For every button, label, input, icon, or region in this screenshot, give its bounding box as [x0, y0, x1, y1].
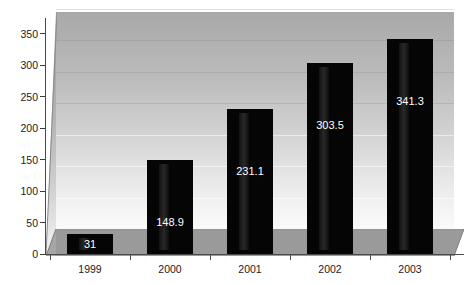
bar: 148.9: [147, 160, 193, 254]
y-axis-tick-label: 200: [20, 122, 38, 134]
x-axis-tick-mark: [50, 255, 51, 260]
bar: 341.3: [387, 39, 433, 254]
bar: 303.5: [307, 63, 353, 254]
x-axis-tick-label: 2001: [220, 263, 280, 275]
y-axis-tick-label: 100: [20, 185, 38, 197]
bar: 31: [67, 234, 113, 254]
x-axis-line: [45, 254, 464, 255]
bar-value-label: 231.1: [227, 165, 273, 177]
x-axis-tick-label: 2003: [380, 263, 440, 275]
y-axis-tick-label: 0: [32, 248, 38, 260]
bar-value-label: 31: [67, 238, 113, 250]
y-axis-tick-label: 150: [20, 154, 38, 166]
bar-highlight: [159, 164, 169, 250]
x-axis-tick-mark: [450, 255, 451, 260]
y-axis-tick-label: 50: [26, 217, 38, 229]
bar-series: 31148.9231.1303.5341.3: [0, 0, 468, 285]
bar-highlight: [239, 113, 249, 250]
x-axis-tick-label: 1999: [60, 263, 120, 275]
bar: 231.1: [227, 109, 273, 254]
bar-highlight: [319, 67, 329, 250]
x-axis-tick-mark: [130, 255, 131, 260]
y-axis-tick-label: 300: [20, 59, 38, 71]
x-axis-tick-mark: [210, 255, 211, 260]
x-axis-tick-label: 2000: [140, 263, 200, 275]
x-axis-tick-mark: [290, 255, 291, 260]
bar-value-label: 148.9: [147, 216, 193, 228]
y-axis: 050100150200250300350: [0, 0, 46, 285]
x-axis-tick-label: 2002: [300, 263, 360, 275]
y-axis-tick-label: 250: [20, 91, 38, 103]
y-axis-tick-label: 350: [20, 28, 38, 40]
bar-chart: 31148.9231.1303.5341.3 05010015020025030…: [0, 0, 468, 285]
bar-highlight: [399, 43, 409, 250]
bar-value-label: 303.5: [307, 119, 353, 131]
bar-value-label: 341.3: [387, 95, 433, 107]
x-axis-tick-mark: [370, 255, 371, 260]
y-axis-line: [45, 18, 46, 254]
